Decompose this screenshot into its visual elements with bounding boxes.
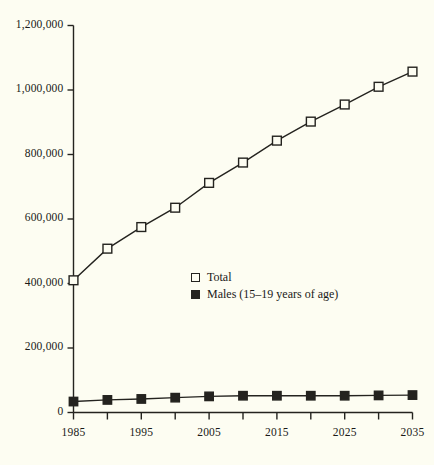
- y-axis-tick-label: 600,000: [25, 211, 64, 223]
- x-axis-tick-label: 2005: [179, 426, 239, 438]
- legend-entry-males: Males (15–19 years of age): [191, 287, 338, 302]
- x-axis-tick-label: 1995: [111, 426, 171, 438]
- chart-plot-area: [0, 0, 434, 465]
- y-axis-tick-label: 800,000: [25, 147, 64, 159]
- legend-label-total: Total: [207, 270, 232, 285]
- legend-label-males: Males (15–19 years of age): [207, 287, 338, 302]
- y-axis-tick-label: 1,000,000: [16, 82, 64, 94]
- legend-marker-filled-square-icon: [191, 290, 200, 299]
- x-axis-tick-label: 2015: [247, 426, 307, 438]
- y-axis-tick-label: 1,200,000: [16, 18, 64, 30]
- y-axis-tick-label: 400,000: [25, 276, 64, 288]
- legend-entry-total: Total: [191, 270, 232, 285]
- chart-container: 0200,000400,000600,000800,0001,000,0001,…: [0, 0, 434, 465]
- legend-marker-open-square-icon: [191, 273, 200, 282]
- x-axis-tick-label: 2035: [383, 426, 434, 438]
- x-axis-tick-label: 1985: [44, 426, 104, 438]
- x-axis-tick-label: 2025: [315, 426, 375, 438]
- y-axis-tick-label: 200,000: [25, 340, 64, 352]
- y-axis-tick-label: 0: [58, 405, 64, 417]
